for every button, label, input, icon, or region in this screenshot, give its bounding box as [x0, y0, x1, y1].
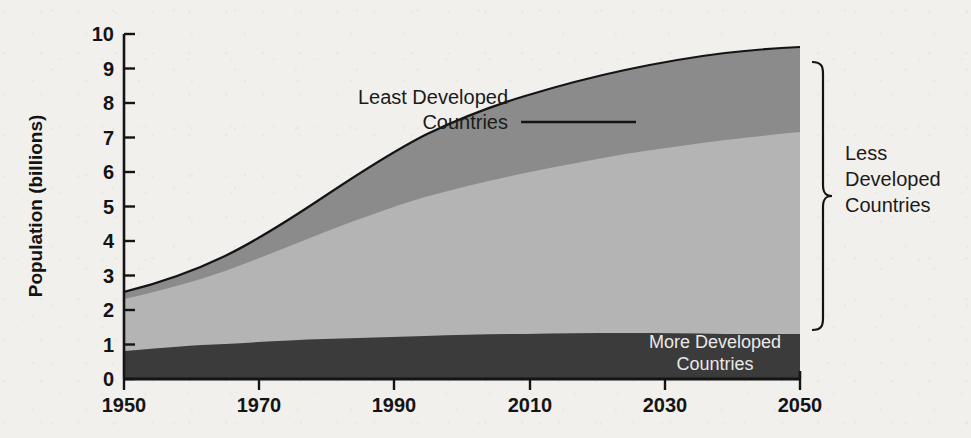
x-axis-ticks	[124, 379, 800, 390]
more-developed-label-line1: More Developed	[649, 332, 781, 352]
more-developed-label-line2: Countries	[676, 354, 753, 374]
y-tick-label-10: 10	[92, 23, 114, 45]
y-tick-label-4: 4	[103, 230, 115, 252]
y-tick-label-8: 8	[103, 92, 114, 114]
less-developed-label-line1: Less	[845, 142, 887, 164]
less-developed-label-line2: Developed	[845, 168, 941, 190]
y-tick-label-1: 1	[103, 334, 114, 356]
y-tick-label-6: 6	[103, 161, 114, 183]
x-tick-label-2050: 2050	[778, 394, 823, 416]
y-tick-label-7: 7	[103, 127, 114, 149]
x-tick-label-1990: 1990	[372, 394, 417, 416]
less-developed-brace	[812, 62, 832, 330]
x-tick-label-1950: 1950	[102, 394, 147, 416]
y-tick-label-5: 5	[103, 196, 114, 218]
y-tick-label-9: 9	[103, 58, 114, 80]
less-developed-label-line3: Countries	[845, 194, 931, 216]
x-tick-label-2030: 2030	[643, 394, 688, 416]
y-tick-label-2: 2	[103, 299, 114, 321]
x-tick-label-2010: 2010	[508, 394, 553, 416]
y-tick-label-0: 0	[103, 368, 114, 390]
y-axis-title: Population (billions)	[25, 115, 46, 298]
chart-canvas: 10 9 8 7 6 5 4 3 2 1 0 1950 1970 1990 20…	[0, 0, 971, 438]
y-tick-label-3: 3	[103, 265, 114, 287]
least-developed-label-line2: Countries	[422, 111, 508, 133]
population-stacked-area-chart: 10 9 8 7 6 5 4 3 2 1 0 1950 1970 1990 20…	[0, 0, 971, 438]
x-tick-label-1970: 1970	[237, 394, 282, 416]
least-developed-label-line1: Least Developed	[358, 86, 508, 108]
